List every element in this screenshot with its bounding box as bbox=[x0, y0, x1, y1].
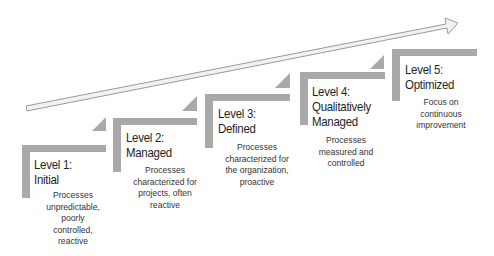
level-2-frame-left bbox=[113, 118, 121, 172]
level-5-description: Focus on continuous improvement bbox=[401, 96, 482, 131]
level-3-frame-left bbox=[205, 94, 213, 148]
level-1-frame-top bbox=[22, 145, 106, 152]
level-3-title: Level 3: Defined bbox=[218, 106, 256, 136]
level-5-frame-top bbox=[392, 49, 477, 56]
level-3-frame-top bbox=[205, 94, 290, 101]
step-triangle-icon bbox=[92, 117, 106, 131]
step-triangle-icon bbox=[275, 73, 290, 88]
level-4-description: Processes measured and controlled bbox=[308, 134, 384, 169]
step-triangle-icon bbox=[182, 96, 197, 111]
step-triangle-icon bbox=[370, 55, 384, 69]
level-2-description: Processes characterized for projects, of… bbox=[121, 164, 209, 210]
level-4-frame-top bbox=[300, 72, 385, 79]
level-4-frame-left bbox=[300, 72, 308, 125]
level-5-title: Level 5: Optimized bbox=[405, 62, 454, 92]
level-3-description: Processes characterized for the organiza… bbox=[213, 141, 301, 187]
level-1-title: Level 1: Initial bbox=[34, 157, 72, 187]
level-1-description: Processes unpredictable, poorly controll… bbox=[38, 189, 108, 247]
level-1-frame-left bbox=[22, 145, 30, 198]
level-2-title: Level 2: Managed bbox=[126, 130, 172, 160]
level-5-frame-left bbox=[392, 49, 400, 101]
level-2-frame-top bbox=[113, 118, 197, 125]
level-4-title: Level 4: Qualitatively Managed bbox=[312, 84, 371, 129]
